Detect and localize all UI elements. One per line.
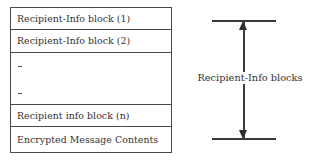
table-row: Encrypted Message Contents: [11, 127, 171, 152]
recipient-info-block-1-label: Recipient-Info block (1): [17, 14, 130, 24]
table-row-ellipsis: [11, 53, 171, 105]
recipient-info-block-2-label: Recipient-Info block (2): [17, 36, 130, 46]
message-structure-table: Recipient-Info block (1) Recipient-Info …: [10, 7, 172, 153]
arrow-cap-bottom-icon: [212, 138, 276, 140]
encrypted-message-contents-label: Encrypted Message Contents: [17, 135, 158, 145]
span-annotation-label: Recipient-Info blocks: [186, 72, 314, 84]
ellipsis-dash-upper-icon: [18, 66, 22, 67]
recipient-info-block-n-label: Recipient info block (n): [17, 111, 129, 121]
ellipsis-dash-lower-icon: [18, 93, 22, 94]
table-row: Recipient info block (n): [11, 105, 171, 127]
table-row: Recipient-Info block (1): [11, 8, 171, 30]
table-row: Recipient-Info block (2): [11, 30, 171, 52]
diagram-canvas: Recipient-Info block (1) Recipient-Info …: [0, 0, 317, 163]
arrow-head-up-icon: [239, 21, 247, 30]
